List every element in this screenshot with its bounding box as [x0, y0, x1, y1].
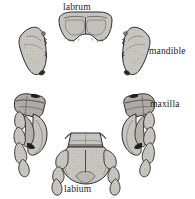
label-labium: labium: [64, 184, 91, 195]
label-maxilla: maxilla: [150, 99, 180, 110]
label-mandible: mandible: [149, 46, 186, 57]
mandible-left-drawing: [19, 27, 47, 75]
label-labrum: labrum: [63, 2, 91, 13]
mandible-right-drawing: [122, 27, 150, 75]
mouthparts-figure: labrum mandible maxilla labium: [0, 0, 195, 199]
maxilla-left-drawing: [14, 94, 47, 177]
labrum-drawing: [59, 12, 112, 43]
